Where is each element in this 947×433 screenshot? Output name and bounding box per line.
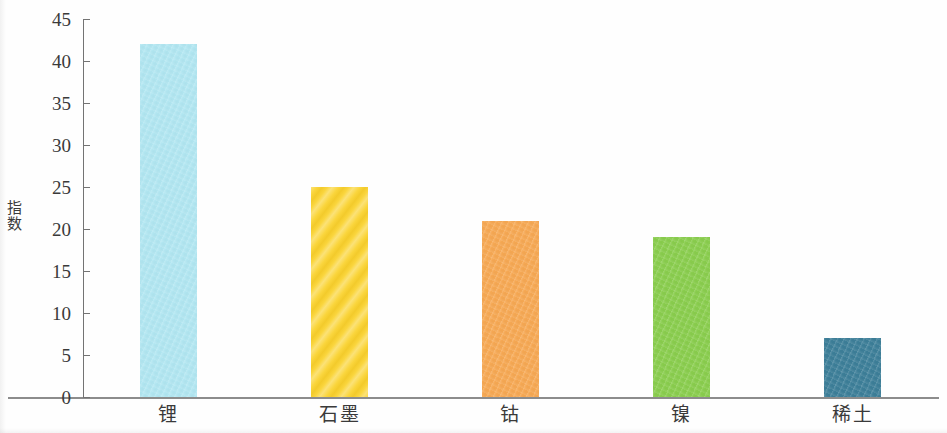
bar-2 — [311, 187, 368, 397]
y-axis-tick — [83, 103, 90, 104]
bar-texture-overlay — [653, 237, 710, 397]
y-axis-tick — [83, 187, 90, 188]
y-axis-tick-label: 20 — [25, 220, 71, 239]
x-axis-tick-label: 镍 — [612, 405, 752, 424]
x-axis-tick-label: 稀土 — [783, 405, 923, 424]
y-axis-tick — [83, 271, 90, 272]
y-axis-tick-label: 35 — [25, 94, 71, 113]
y-axis-title: 指数 — [2, 170, 26, 262]
bar-texture-overlay — [824, 338, 881, 397]
y-axis-tick — [83, 355, 90, 356]
y-axis-tick-label: 10 — [25, 304, 71, 323]
x-axis-spine — [8, 397, 939, 399]
y-axis-tick — [83, 19, 90, 20]
y-axis-tick — [83, 313, 90, 314]
bar-chart: 指数 051015202530354045 锂石墨钴镍稀土 — [0, 0, 947, 433]
x-axis-tick-label: 石墨 — [270, 405, 410, 424]
bar-1 — [140, 44, 197, 397]
y-axis-tick-label: 30 — [25, 136, 71, 155]
y-axis-tick-label: 45 — [25, 10, 71, 29]
x-axis-tick-label: 钴 — [441, 405, 581, 424]
bar-5 — [824, 338, 881, 397]
bar-texture-overlay — [311, 187, 368, 397]
bar-4 — [653, 237, 710, 397]
y-axis-tick-label: 40 — [25, 52, 71, 71]
bar-texture-overlay — [140, 44, 197, 397]
y-axis-tick-label: 5 — [25, 346, 71, 365]
y-axis-tick — [83, 397, 90, 398]
y-axis-tick-label: 0 — [25, 388, 71, 407]
y-axis-tick — [83, 145, 90, 146]
bar-texture-overlay — [482, 221, 539, 397]
plot-area: 051015202530354045 — [83, 19, 938, 397]
bar-3 — [482, 221, 539, 397]
y-axis-tick-label: 25 — [25, 178, 71, 197]
y-axis-tick — [83, 229, 90, 230]
scan-edge-shading-bottom — [0, 428, 947, 433]
y-axis-tick-label: 15 — [25, 262, 71, 281]
x-axis-tick-label: 锂 — [99, 405, 239, 424]
y-axis-tick — [83, 61, 90, 62]
